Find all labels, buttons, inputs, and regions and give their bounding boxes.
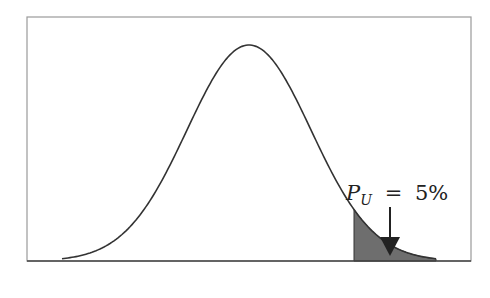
p-subscript: U [360, 192, 372, 208]
density-curve [62, 45, 436, 259]
p-symbol: P [346, 181, 360, 205]
plot-frame [27, 17, 471, 261]
normal-distribution-chart [0, 0, 490, 298]
equals-sign: = [385, 181, 403, 205]
upper-tail-shaded-area [354, 210, 436, 261]
probability-value: 5% [415, 181, 448, 205]
tail-probability-label: PU = 5% [346, 181, 448, 208]
